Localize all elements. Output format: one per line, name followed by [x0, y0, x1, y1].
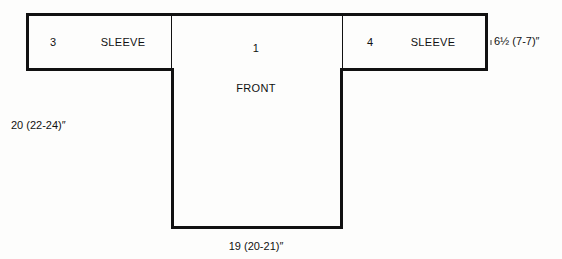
- sleeve-left-piece-number: 3: [50, 36, 56, 48]
- dimension-hem-width-label: 19 (20-21)″: [229, 240, 284, 252]
- sleeve-right-piece-number: 4: [367, 36, 373, 48]
- dimension-body-width-label: 20 (22-24)″: [11, 119, 66, 131]
- sleeve-left-piece-name: SLEEVE: [101, 36, 146, 48]
- shoulder-seam-mask-left: [172, 16, 175, 68]
- dimension-sleeve-length-label: 6½ (7-7)″: [494, 35, 539, 47]
- garment-schematic-diagram: 3 SLEEVE 1 FRONT 4 SLEEVE 6½ (7-7)″ 20 (…: [0, 0, 562, 259]
- shoulder-seam-mask-right: [339, 16, 342, 68]
- sleeve-length-leader-tick: [490, 40, 492, 45]
- front-piece-name: FRONT: [236, 82, 275, 94]
- sleeve-right-piece-name: SLEEVE: [411, 36, 456, 48]
- front-piece-number: 1: [253, 42, 259, 54]
